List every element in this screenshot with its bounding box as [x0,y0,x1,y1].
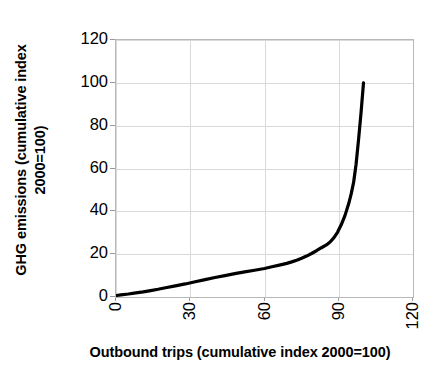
series-canvas [116,40,413,297]
data-series [116,83,364,296]
x-tick-label: 120 [402,302,422,348]
x-tick-label: 90 [328,302,348,348]
x-axis-label: Outbound trips (cumulative index 2000=10… [40,344,440,360]
x-tick-label: 30 [179,302,199,348]
series-line [116,83,364,296]
x-tick-label: 0 [105,302,125,348]
plot-area [115,39,414,298]
chart-figure: GHG emissions (cumulative index 2000=100… [0,0,445,376]
gridlines [116,40,413,297]
x-tick-label: 60 [254,302,274,348]
